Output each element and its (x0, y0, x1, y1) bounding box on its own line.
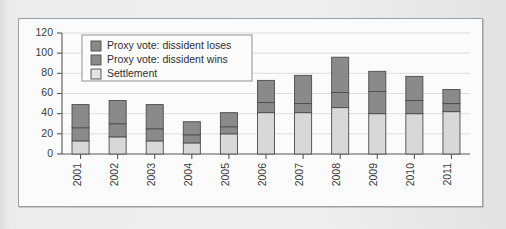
y-tick-label: 80 (41, 66, 53, 78)
bar-segment (443, 104, 460, 112)
legend-swatch (91, 69, 101, 79)
bar-segment (183, 122, 200, 135)
bar-segment (369, 71, 386, 91)
chart-panel: 0204060801001202001200220032004200520062… (18, 18, 483, 207)
x-tick-label: 2003 (145, 163, 157, 187)
y-tick-label: 100 (35, 46, 53, 58)
bar-segment (257, 113, 274, 154)
bar-segment (109, 101, 126, 124)
legend-label: Settlement (107, 67, 157, 79)
bar-segment (183, 135, 200, 143)
bar-segment (443, 112, 460, 154)
bar-segment (72, 141, 89, 154)
bar-segment (295, 104, 312, 113)
bar-segment (257, 80, 274, 102)
bar-segment (369, 91, 386, 113)
y-tick-label: 120 (35, 26, 53, 38)
bar-segment (257, 103, 274, 113)
bar-segment (406, 101, 423, 114)
y-tick-label: 40 (41, 106, 53, 118)
bar-segment (369, 114, 386, 154)
legend-label: Proxy vote: dissident loses (107, 39, 231, 51)
x-tick-label: 2008 (330, 163, 342, 187)
chart-figure: 0204060801001202001200220032004200520062… (0, 0, 506, 229)
y-tick-label: 20 (41, 127, 53, 139)
plot-area: 0204060801001202001200220032004200520062… (19, 19, 482, 206)
bar-segment (443, 89, 460, 103)
legend-swatch (91, 55, 101, 65)
y-tick-label: 60 (41, 86, 53, 98)
bar-segment (72, 128, 89, 141)
bar-segment (295, 113, 312, 154)
x-tick-label: 2010 (404, 163, 416, 187)
bar-segment (220, 134, 237, 154)
legend-swatch (91, 41, 101, 51)
x-tick-label: 2007 (293, 163, 305, 187)
x-tick-label: 2009 (367, 163, 379, 187)
x-tick-label: 2005 (219, 163, 231, 187)
bar-segment (146, 105, 163, 129)
bar-segment (220, 113, 237, 127)
x-tick-label: 2001 (71, 163, 83, 187)
bar-segment (220, 127, 237, 134)
bar-segment (72, 105, 89, 128)
bar-segment (146, 129, 163, 141)
bar-segment (406, 114, 423, 154)
bar-segment (406, 76, 423, 100)
bar-segment (183, 143, 200, 154)
bar-segment (109, 137, 126, 154)
x-tick-label: 2002 (108, 163, 120, 187)
legend-label: Proxy vote: dissident wins (107, 53, 228, 65)
bar-segment (332, 92, 349, 107)
bar-segment (146, 141, 163, 154)
bar-segment (332, 57, 349, 92)
x-tick-label: 2006 (256, 163, 268, 187)
x-tick-label: 2004 (182, 163, 194, 187)
stacked-bar-chart: 0204060801001202001200220032004200520062… (19, 19, 482, 206)
bar-segment (109, 124, 126, 137)
bar-segment (295, 75, 312, 103)
y-tick-label: 0 (47, 147, 53, 159)
x-tick-label: 2011 (441, 163, 453, 186)
bar-segment (332, 108, 349, 154)
